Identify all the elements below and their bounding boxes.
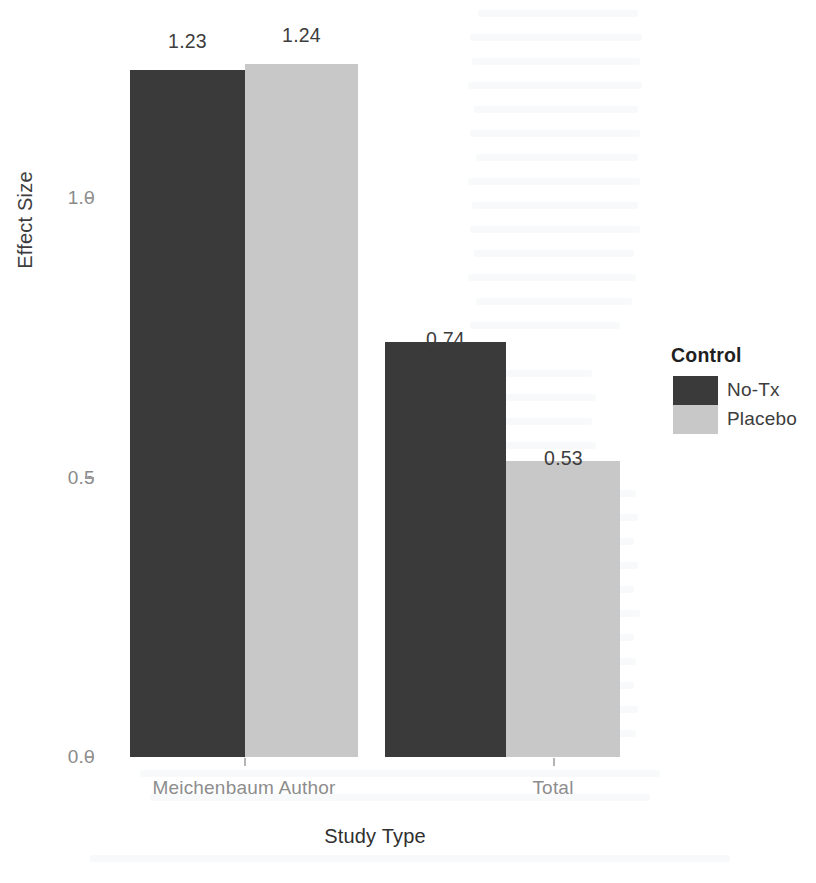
x-tick-mark-meichenbaum: [244, 758, 246, 766]
x-axis-title: Study Type: [95, 825, 655, 848]
legend-item-no-tx[interactable]: No-Tx: [671, 376, 811, 405]
legend-label-placebo: Placebo: [727, 408, 797, 430]
bar-total-no-tx[interactable]: [385, 342, 506, 757]
y-tick-mark-1: [85, 197, 94, 199]
bar-value-total-no-tx: 0.74: [378, 328, 513, 351]
bar-meichenbaum-placebo[interactable]: [245, 64, 358, 757]
bar-meichenbaum-no-tx[interactable]: [130, 70, 245, 757]
bar-total-placebo[interactable]: [506, 461, 620, 757]
bar-value-meichenbaum-placebo: 1.24: [234, 24, 369, 47]
legend: Control No-Tx Placebo: [671, 344, 811, 434]
y-axis-title: Effect Size: [14, 120, 37, 320]
legend-label-no-tx: No-Tx: [727, 379, 780, 401]
y-tick-mark-0: [85, 756, 94, 758]
legend-keys: No-Tx Placebo: [671, 376, 811, 434]
plot-area: 1.23 1.24 0.74 0.53: [95, 14, 655, 757]
legend-swatch-placebo: [673, 405, 718, 434]
legend-title: Control: [671, 344, 811, 367]
x-tick-label-total: Total: [483, 777, 623, 799]
legend-item-placebo[interactable]: Placebo: [671, 405, 811, 434]
bar-value-total-placebo: 0.53: [496, 447, 631, 470]
x-tick-label-meichenbaum: Meichenbaum Author: [124, 777, 364, 799]
y-tick-mark-0-5: [85, 477, 94, 479]
x-tick-mark-total: [553, 758, 555, 766]
y-tick-label-0: 0.0: [15, 746, 95, 768]
legend-swatch-no-tx: [673, 376, 718, 405]
bar-chart: 1.0 0.5 0.0 Effect Size 1.23 1.24 0.74 0…: [0, 0, 816, 883]
y-tick-label-0-5: 0.5: [15, 467, 95, 489]
